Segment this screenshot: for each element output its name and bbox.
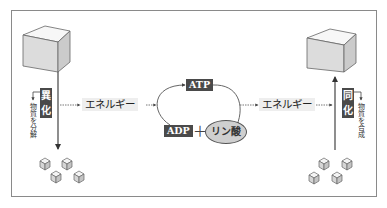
cycle-arc-left (157, 85, 185, 125)
small-cubes-right-icon (309, 158, 352, 184)
catabolism-char-1: 異 (40, 88, 52, 103)
anabolism-note: 物質を合成 (357, 103, 365, 138)
catabolism-note: 物質を分解 (29, 103, 37, 138)
catabolism-label: 異 化 (40, 88, 52, 118)
anabolism-label: 同 化 (342, 88, 354, 118)
adp-label: ADP (164, 125, 193, 137)
catabolism-char-2: 化 (40, 103, 52, 118)
energy-label-left: エネルギー (82, 98, 138, 111)
large-cube-right-icon (307, 29, 356, 72)
energy-label-right: エネルギー (259, 98, 315, 111)
atp-label: ATP (186, 79, 213, 91)
diagram-canvas (0, 0, 387, 208)
cycle-arc-right (213, 85, 240, 125)
phosphate-ellipse: リン酸 (205, 120, 247, 144)
anabolism-char-1: 同 (342, 88, 354, 103)
anabolism-char-2: 化 (342, 103, 354, 118)
large-cube-left-icon (23, 26, 70, 72)
small-cubes-left-icon (40, 158, 84, 183)
